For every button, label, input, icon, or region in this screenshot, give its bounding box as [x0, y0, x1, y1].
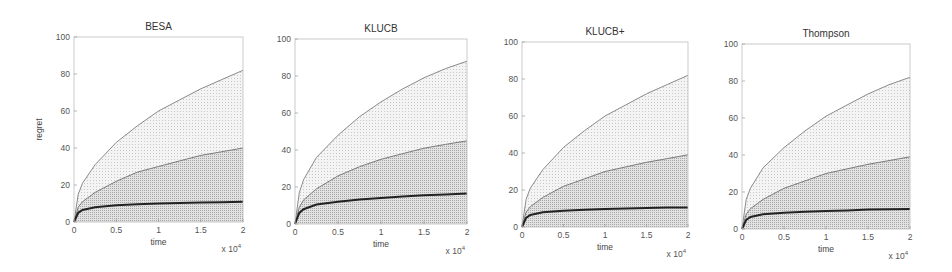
x-tick-label: 2	[686, 230, 691, 240]
y-tick-label: 100	[504, 37, 518, 47]
y-tick-label: 60	[509, 111, 519, 121]
chart-title: KLUCB+	[585, 26, 624, 37]
x-tick-label: 1	[603, 230, 608, 240]
y-tick-label: 100	[56, 32, 70, 42]
x-axis-label: time	[150, 237, 166, 247]
x-tick-label: 0.5	[110, 225, 122, 235]
x-axis-multiplier: x 104	[889, 250, 909, 261]
x-tick-label: 2	[908, 232, 913, 242]
x-tick-label: 1	[824, 232, 829, 242]
chart-title: KLUCB	[364, 23, 398, 34]
x-tick-label: 1.5	[862, 232, 874, 242]
y-tick-label: 40	[509, 148, 519, 158]
chart-title: Thompson	[802, 28, 849, 39]
x-tick-label: 0.5	[332, 227, 344, 237]
chart-panel-1: 02040608010000.511.52BESAtimex 104regret	[34, 21, 246, 254]
y-tick-label: 20	[282, 182, 292, 192]
x-tick-label: 1	[379, 227, 384, 237]
x-tick-label: 0	[293, 227, 298, 237]
x-tick-label: 1.5	[641, 230, 653, 240]
figure-canvas: 02040608010000.511.52BESAtimex 104regret…	[0, 0, 952, 272]
x-tick-label: 1.5	[195, 225, 207, 235]
x-tick-label: 0	[72, 225, 77, 235]
y-axis-label: regret	[34, 118, 44, 141]
x-tick-label: 1	[156, 225, 161, 235]
x-axis-multiplier: x 104	[446, 245, 466, 256]
x-tick-label: 0.5	[558, 230, 570, 240]
x-axis-label: time	[818, 244, 834, 254]
y-tick-label: 80	[509, 74, 519, 84]
y-tick-label: 40	[61, 143, 71, 153]
y-tick-label: 20	[509, 185, 519, 195]
y-tick-label: 80	[61, 69, 71, 79]
x-axis-label: time	[597, 242, 613, 252]
x-tick-label: 0	[740, 232, 745, 242]
y-tick-label: 60	[282, 108, 292, 118]
y-tick-label: 0	[733, 224, 738, 234]
y-tick-label: 20	[729, 187, 739, 197]
y-tick-label: 100	[277, 34, 291, 44]
y-tick-label: 80	[729, 76, 739, 86]
y-tick-label: 20	[61, 180, 71, 190]
y-tick-label: 0	[286, 219, 291, 229]
y-tick-label: 60	[61, 106, 71, 116]
y-tick-label: 60	[729, 113, 739, 123]
x-tick-label: 2	[465, 227, 470, 237]
y-tick-label: 0	[513, 222, 518, 232]
y-tick-label: 40	[282, 145, 292, 155]
chart-panel-3: 02040608010000.511.52KLUCB+timex 104	[504, 26, 691, 259]
x-tick-label: 2	[241, 225, 246, 235]
x-axis-multiplier: x 104	[222, 243, 242, 254]
x-axis-label: time	[373, 239, 389, 249]
chart-panel-4: 02040608010000.511.52Thompsontimex 104	[724, 28, 913, 261]
y-tick-label: 40	[729, 150, 739, 160]
x-tick-label: 1.5	[418, 227, 430, 237]
y-tick-label: 100	[724, 39, 738, 49]
y-tick-label: 0	[65, 217, 70, 227]
chart-panel-2: 02040608010000.511.52KLUCBtimex 104	[277, 23, 470, 256]
x-tick-label: 0	[520, 230, 525, 240]
x-axis-multiplier: x 104	[667, 248, 687, 259]
chart-title: BESA	[145, 21, 172, 32]
y-tick-label: 80	[282, 71, 292, 81]
x-tick-label: 0.5	[778, 232, 790, 242]
